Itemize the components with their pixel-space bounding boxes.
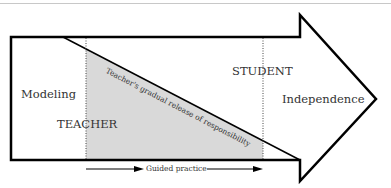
label-independence: Independence [282, 94, 365, 106]
label-modeling: Modeling [21, 89, 76, 101]
arrowhead-icon [253, 166, 263, 172]
label-teacher: TEACHER [57, 119, 117, 131]
label-student: STUDENT [232, 66, 293, 78]
arrowhead-icon [134, 166, 144, 172]
label-guided-practice: Guided practice [146, 165, 207, 173]
gradual-release-diagram: Modeling TEACHER STUDENT Independence Te… [0, 0, 391, 188]
